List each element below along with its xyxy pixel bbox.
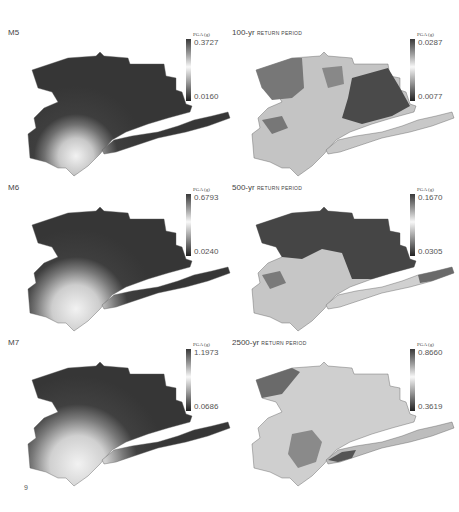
legend-min-value: 0.0686 <box>194 402 218 411</box>
legend-min-value: 0.3619 <box>418 402 442 411</box>
legend-max-value: 0.8660 <box>418 348 442 357</box>
legend-max-value: 0.3727 <box>194 38 218 47</box>
legend-colorbar <box>410 194 415 256</box>
legend-max-value: 1.1973 <box>194 348 218 357</box>
legend-label: PGA (g) <box>193 187 210 192</box>
legend-colorbar <box>186 194 191 256</box>
legend-min-value: 0.0305 <box>418 247 442 256</box>
legend-max-value: 0.1670 <box>418 193 442 202</box>
legend-colorbar <box>410 349 415 411</box>
legend-label: PGA (g) <box>417 32 434 37</box>
legend-2500yr: PGA (g) 0.8660 0.3619 <box>410 344 459 424</box>
legend-max-value: 0.6793 <box>194 193 218 202</box>
legend-label: PGA (g) <box>417 187 434 192</box>
legend-colorbar <box>186 349 191 411</box>
legend-min-value: 0.0077 <box>418 92 442 101</box>
legend-label: PGA (g) <box>417 342 434 347</box>
legend-label: PGA (g) <box>193 32 210 37</box>
legend-500yr: PGA (g) 0.1670 0.0305 <box>410 189 459 269</box>
legend-label: PGA (g) <box>193 342 210 347</box>
legend-colorbar <box>186 39 191 101</box>
legend-max-value: 0.0287 <box>418 38 442 47</box>
legend-min-value: 0.0240 <box>194 247 218 256</box>
legend-min-value: 0.0160 <box>194 92 218 101</box>
legend-colorbar <box>410 39 415 101</box>
legend-100yr: PGA (g) 0.0287 0.0077 <box>410 34 459 114</box>
page-number: 9 <box>24 484 28 491</box>
